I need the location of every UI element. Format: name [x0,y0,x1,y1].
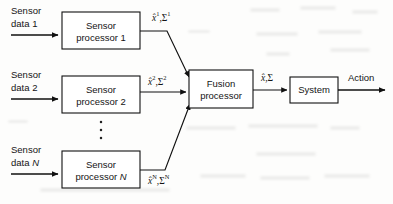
signal-label-fused: x̂,Σ [260,73,274,83]
block-sensor-processor-2-line1: Sensor [86,84,116,95]
vertical-ellipsis-dot-3 [100,137,103,140]
block-sensor-processor-n-line2: processor N [75,171,126,182]
block-fusion-processor-line2: processor [200,90,242,101]
block-sensor-processor-1-line2: processor 1 [76,32,126,43]
signal-label-2: x̂2,Σ2 [147,75,167,87]
input-label-1-line2: data 1 [11,18,37,29]
block-sensor-processor-1-line1: Sensor [86,20,116,31]
wire-signal-n [140,104,190,170]
input-label-2-line2: data 2 [11,82,37,93]
block-diagram: Sensor data 1 Sensor data 2 Sensor data … [0,0,393,204]
diagram-canvas: Sensor data 1 Sensor data 2 Sensor data … [0,0,393,204]
input-label-1-line1: Sensor [11,5,41,16]
signal-label-1: x̂1,Σ1 [151,11,171,23]
vertical-ellipsis-dot-1 [100,121,103,124]
input-label-n-line1: Sensor [11,144,41,155]
block-system-label: System [298,84,330,95]
output-label-action: Action [348,72,374,83]
input-label-n-line2: data N [11,157,39,168]
input-label-2-line1: Sensor [11,69,41,80]
block-sensor-processor-2-line2: processor 2 [76,96,126,107]
wire-signal-1 [140,31,189,77]
block-fusion-processor-line1: Fusion [207,78,236,89]
vertical-ellipsis-dot-2 [100,129,103,132]
signal-label-n: x̂N,ΣN [147,174,170,186]
block-sensor-processor-n-line1: Sensor [86,159,116,170]
